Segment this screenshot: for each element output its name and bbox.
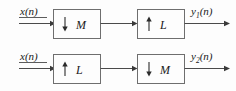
row-2-output-arrowhead [224, 66, 230, 71]
row-1-group: x(n) M L y1(n) [19, 5, 230, 39]
row-1-output-label: y1(n) [190, 5, 213, 20]
row-1-output-arrowhead [224, 21, 230, 26]
row-2-group: x(n) L M y2(n) [19, 50, 230, 84]
row-1-block-1-factor: M [75, 18, 87, 32]
row-2-output-label: y2(n) [190, 50, 213, 65]
signal-flow-diagram: x(n) M L y1(n) [0, 0, 236, 91]
row-1-input-label: x(n) [19, 5, 38, 18]
row-2-block-1-factor: L [75, 63, 83, 77]
row-1-interblock-arrowhead [132, 21, 138, 26]
row-2-interblock-arrowhead [132, 66, 138, 71]
row-2-output-label-suffix: (n) [200, 50, 213, 63]
row-2-input-label: x(n) [19, 50, 38, 63]
row-2-block-2-factor: M [159, 63, 171, 77]
row-1-output-label-suffix: (n) [200, 5, 213, 18]
row-1-block-2-factor: L [159, 18, 167, 32]
